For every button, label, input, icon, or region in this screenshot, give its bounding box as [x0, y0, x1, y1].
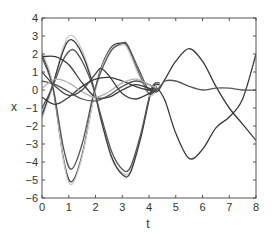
x-tick-label: 0 [39, 201, 45, 213]
y-tick-label: 1 [32, 66, 38, 78]
y-tick-label: −5 [25, 174, 38, 186]
plot-area-frame [42, 18, 256, 198]
y-tick-label: 3 [32, 30, 38, 42]
x-tick-label: 6 [199, 201, 205, 213]
y-tick-label: −6 [25, 192, 38, 204]
line-chart: 012345678−6−5−4−3−2−101234 t x [0, 0, 272, 238]
series-layer [42, 35, 256, 184]
y-axis-label: x [11, 100, 17, 114]
y-tick-label: −3 [25, 138, 38, 150]
x-tick-label: 8 [253, 201, 259, 213]
y-tick-label: 4 [32, 12, 38, 24]
x-tick-label: 3 [119, 201, 125, 213]
series-line-2 [42, 40, 160, 178]
series-line-1 [42, 35, 160, 175]
x-tick-label: 5 [173, 201, 179, 213]
y-tick-label: −1 [25, 102, 38, 114]
y-tick-label: 0 [32, 84, 38, 96]
x-tick-label: 7 [226, 201, 232, 213]
axis-ticks: 012345678−6−5−4−3−2−101234 [25, 12, 259, 213]
series-line-8 [42, 54, 256, 159]
y-tick-label: −4 [25, 156, 38, 168]
x-tick-label: 1 [66, 201, 72, 213]
y-tick-label: 2 [32, 48, 38, 60]
y-tick-label: −2 [25, 120, 38, 132]
x-tick-label: 2 [92, 201, 98, 213]
x-axis-label: t [146, 217, 150, 231]
x-tick-label: 4 [146, 201, 152, 213]
